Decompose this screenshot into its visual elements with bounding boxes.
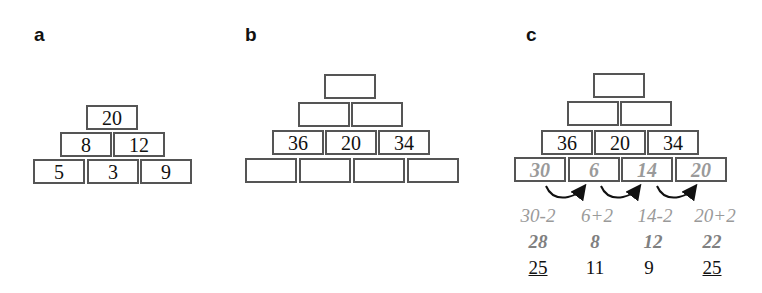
curved-arrow-icon <box>657 186 695 198</box>
result: 22 <box>677 232 747 251</box>
answer: 25 <box>677 258 747 277</box>
expression: 20+2 <box>680 206 750 225</box>
curved-arrow-icon <box>546 186 584 198</box>
curved-arrow-icon <box>601 186 639 198</box>
answer: 9 <box>614 258 684 277</box>
